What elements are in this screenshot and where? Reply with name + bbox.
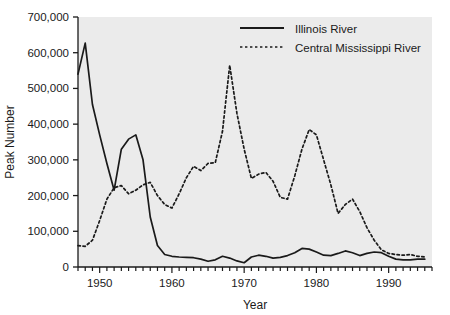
x-tick-label: 1970 <box>231 277 257 289</box>
y-tick-label: 700,000 <box>27 11 69 23</box>
x-tick-label: 1980 <box>304 277 330 289</box>
legend-label: Illinois River <box>295 23 357 35</box>
y-tick-label: 400,000 <box>27 118 69 130</box>
x-axis-title: Year <box>243 298 267 312</box>
x-tick-label: 1960 <box>159 277 185 289</box>
y-tick-label: 200,000 <box>27 190 69 202</box>
line-chart: 0100,000200,000300,000400,000500,000600,… <box>0 0 450 315</box>
y-tick-label: 0 <box>63 261 69 273</box>
plot-area-background <box>78 17 432 267</box>
y-tick-label: 300,000 <box>27 154 69 166</box>
x-tick-label: 1950 <box>87 277 113 289</box>
legend-label: Central Mississippi River <box>295 42 421 54</box>
chart-figure: 0100,000200,000300,000400,000500,000600,… <box>0 0 450 315</box>
y-tick-label: 600,000 <box>27 47 69 59</box>
y-axis-title: Peak Number <box>3 105 17 178</box>
x-tick-label: 1990 <box>376 277 402 289</box>
y-tick-label: 500,000 <box>27 82 69 94</box>
y-tick-label: 100,000 <box>27 225 69 237</box>
